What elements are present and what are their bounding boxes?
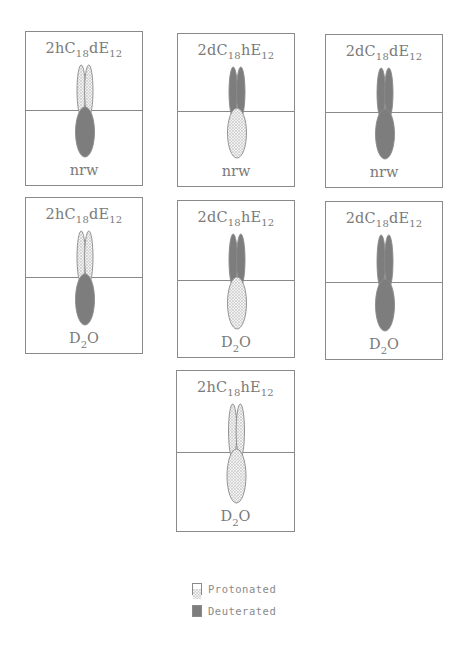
medium-label: nrw xyxy=(26,162,142,178)
panel-p6: 2dC18dE12D2O xyxy=(325,201,443,360)
medium-label: D2O xyxy=(177,508,294,524)
medium-main: D xyxy=(221,508,233,524)
medium-label: nrw xyxy=(178,163,294,179)
medium-tail: O xyxy=(239,508,251,524)
medium-tail: O xyxy=(387,336,399,352)
medium-main: nrw xyxy=(222,163,251,179)
panel-p1: 2hC18dE12nrw xyxy=(25,31,143,186)
protonated-swatch-icon xyxy=(192,583,202,595)
deuterated-swatch-icon xyxy=(192,605,202,617)
panel-p5: 2dC18hE12D2O xyxy=(177,200,295,358)
medium-main: nrw xyxy=(70,162,99,178)
legend-item-protonated: Protonated xyxy=(192,578,276,600)
panel-p4: 2hC18dE12D2O xyxy=(25,197,143,354)
panel-p3: 2dC18dE12nrw xyxy=(325,34,443,188)
medium-label: D2O xyxy=(178,334,294,350)
medium-tail: O xyxy=(239,334,251,350)
medium-main: D xyxy=(221,334,233,350)
medium-label: D2O xyxy=(26,330,142,346)
medium-main: D xyxy=(369,336,381,352)
medium-main: nrw xyxy=(370,164,399,180)
medium-main: D xyxy=(69,330,81,346)
legend-label: Protonated xyxy=(208,583,276,595)
panel-p2: 2dC18hE12nrw xyxy=(177,33,295,187)
panel-p7: 2hC18hE12D2O xyxy=(176,370,295,532)
legend-label: Deuterated xyxy=(208,605,276,617)
medium-label: D2O xyxy=(326,336,442,352)
medium-label: nrw xyxy=(326,164,442,180)
medium-tail: O xyxy=(87,330,99,346)
legend: Protonated Deuterated xyxy=(192,578,276,622)
legend-item-deuterated: Deuterated xyxy=(192,600,276,622)
